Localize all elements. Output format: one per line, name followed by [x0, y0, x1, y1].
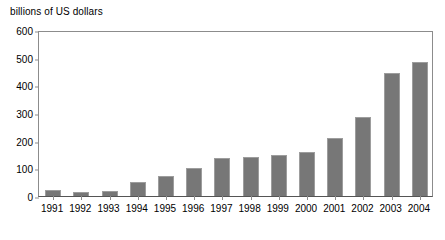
x-tick-label: 1999 — [267, 203, 289, 215]
x-tick-label: 1994 — [126, 203, 148, 215]
x-tick-mark — [222, 196, 223, 200]
x-tick-mark — [420, 196, 421, 200]
y-axis-title: billions of US dollars — [10, 6, 103, 18]
x-tick-label: 2002 — [351, 203, 373, 215]
x-tick-label: 1991 — [41, 203, 63, 215]
y-tick-label: 600 — [5, 27, 39, 37]
x-tick-label: 2004 — [408, 203, 430, 215]
x-tick-mark — [363, 196, 364, 200]
x-tick-mark — [392, 196, 393, 200]
bar — [186, 168, 202, 196]
y-tick-label: 500 — [5, 55, 39, 65]
x-tick-mark — [166, 196, 167, 200]
bar-chart: billions of US dollars 01002003004005006… — [0, 0, 445, 240]
bar — [214, 158, 230, 196]
y-tick-label: 0 — [5, 193, 39, 203]
x-tick-mark — [307, 196, 308, 200]
bar — [130, 182, 146, 196]
x-tick-mark — [251, 196, 252, 200]
x-tick-mark — [81, 196, 82, 200]
x-tick-mark — [138, 196, 139, 200]
y-tick-label: 300 — [5, 110, 39, 120]
x-tick-label: 1992 — [69, 203, 91, 215]
y-tick-mark — [35, 198, 39, 199]
bar — [384, 73, 400, 196]
bar — [299, 152, 315, 196]
x-tick-label: 2000 — [295, 203, 317, 215]
y-tick-label: 200 — [5, 138, 39, 148]
x-tick-label: 2001 — [323, 203, 345, 215]
x-tick-label: 1995 — [154, 203, 176, 215]
x-tick-mark — [335, 196, 336, 200]
x-tick-mark — [194, 196, 195, 200]
bars-layer — [39, 32, 432, 196]
bar — [327, 138, 343, 196]
plot-area: 0100200300400500600 — [38, 31, 433, 197]
x-tick-label: 1997 — [210, 203, 232, 215]
x-tick-mark — [53, 196, 54, 200]
x-tick-mark — [279, 196, 280, 200]
bar — [355, 117, 371, 196]
x-tick-label: 2003 — [380, 203, 402, 215]
bar — [158, 176, 174, 196]
x-tick-mark — [110, 196, 111, 200]
bar — [271, 155, 287, 197]
bar — [412, 62, 428, 196]
x-tick-label: 1993 — [97, 203, 119, 215]
x-tick-label: 1998 — [238, 203, 260, 215]
x-tick-label: 1996 — [182, 203, 204, 215]
y-tick-label: 100 — [5, 165, 39, 175]
y-tick-label: 400 — [5, 82, 39, 92]
bar — [243, 157, 259, 196]
